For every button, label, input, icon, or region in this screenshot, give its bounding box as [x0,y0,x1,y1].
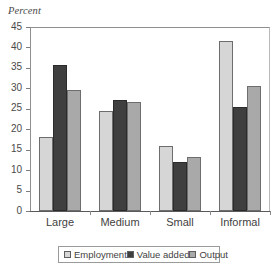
x-axis-separator-tick [270,211,271,215]
bar-group [39,27,81,211]
y-axis-tick-label: 20 [11,123,22,134]
y-axis-tick: 40 [0,47,30,48]
x-axis-category-label: Large [30,216,90,228]
x-axis-category-label: Informal [210,216,270,228]
y-axis-tick: 5 [0,191,30,192]
bar-group [159,27,201,211]
bar-chart-figure: Percent 051015202530354045 LargeMediumSm… [0,0,277,269]
x-axis-category-label: Medium [90,216,150,228]
bar [159,146,173,211]
x-axis-separator-tick [210,211,211,215]
y-axis-tick-label: 40 [11,41,22,52]
bar [39,137,53,211]
legend-entry-label: Output [199,249,228,260]
bar [53,65,67,211]
legend-entry-label: Employment [74,249,127,260]
y-axis-tick: 15 [0,150,30,151]
legend-swatch-output [189,251,196,258]
y-axis-tick-label: 35 [11,61,22,72]
chart-legend: EmploymentValue addedOutput [58,246,220,263]
legend-swatch-employment [64,251,71,258]
bar [67,90,81,211]
y-axis-tick-label: 30 [11,82,22,93]
bar [247,86,261,211]
y-axis-tick: 35 [0,68,30,69]
bar [187,157,201,211]
bar [113,100,127,211]
y-axis-tick: 30 [0,88,30,89]
y-axis-tick-label: 25 [11,102,22,113]
bar [233,107,247,211]
y-axis-tick: 45 [0,27,30,28]
y-axis-tick-label: 0 [16,205,22,216]
y-axis-tick: 20 [0,129,30,130]
legend-entry: Employment [64,249,127,260]
legend-entry: Value added [127,249,190,260]
legend-swatch-value-added [127,251,134,258]
y-axis-tick: 10 [0,170,30,171]
bar [173,162,187,211]
y-axis-tick: 25 [0,109,30,110]
bar [219,41,233,211]
y-axis-tick-label: 5 [16,184,22,195]
bar [99,111,113,211]
y-axis-tick: 0 [0,211,30,212]
bar-group [219,27,261,211]
y-axis-unit-label: Percent [8,5,41,16]
legend-entry-label: Value added [137,249,190,260]
x-axis-category-label: Small [150,216,210,228]
y-axis-tick-label: 45 [11,21,22,32]
x-axis-separator-tick [150,211,151,215]
y-axis-tick-label: 15 [11,143,22,154]
y-axis-tick-label: 10 [11,164,22,175]
legend-entry: Output [189,249,228,260]
x-axis-separator-tick [90,211,91,215]
bar-group [99,27,141,211]
bar [127,102,141,211]
